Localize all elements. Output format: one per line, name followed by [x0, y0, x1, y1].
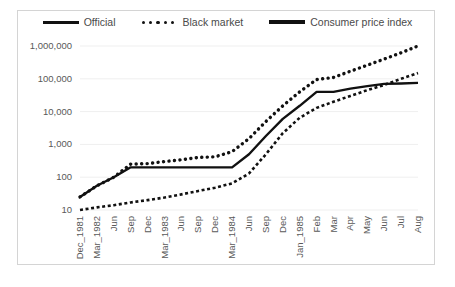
- x-axis-tick: Apr: [345, 216, 355, 231]
- x-axis-tick-labels: Dec_1981Mar_1982JunSepDecMar_1983JunSepD…: [0, 0, 455, 287]
- x-axis-tick: Jun: [379, 216, 389, 231]
- x-axis-tick: Mar_1984: [227, 216, 237, 259]
- x-axis-tick: Dec: [278, 216, 288, 233]
- x-axis-tick: Mar_1982: [92, 216, 102, 259]
- x-axis-tick: Jun: [244, 216, 254, 231]
- x-axis-tick: Sep: [261, 216, 271, 233]
- x-axis-tick: Aug: [413, 216, 423, 233]
- x-axis-tick: Dec: [143, 216, 153, 233]
- x-axis-tick: Mar: [329, 216, 339, 232]
- x-axis-tick: Jan_1985: [295, 216, 305, 258]
- x-axis-tick: Feb: [312, 216, 322, 232]
- x-axis-tick: Mar_1983: [160, 216, 170, 259]
- x-axis-tick: Jun: [109, 216, 119, 231]
- x-axis-tick: Jul: [396, 216, 406, 228]
- x-axis-tick: May: [362, 216, 372, 234]
- x-axis-tick: Sep: [193, 216, 203, 233]
- x-axis-tick: Dec: [210, 216, 220, 233]
- x-axis-tick: Dec_1981: [75, 216, 85, 259]
- x-axis-tick: Jun: [176, 216, 186, 231]
- x-axis-tick: Sep: [126, 216, 136, 233]
